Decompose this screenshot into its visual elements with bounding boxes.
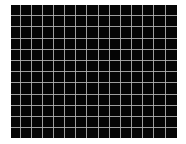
grid-line-horizontal: [11, 49, 177, 50]
grid-line-horizontal: [11, 38, 177, 39]
grid-line-horizontal: [11, 94, 177, 95]
image-canvas: [0, 0, 186, 144]
grid-pattern-panel: [11, 5, 177, 138]
grid-line-horizontal: [11, 127, 177, 128]
grid-line-horizontal: [11, 82, 177, 83]
grid-line-horizontal: [11, 71, 177, 72]
grid-line-horizontal: [11, 116, 177, 117]
grid-line-horizontal: [11, 105, 177, 106]
grid-line-horizontal: [11, 26, 177, 27]
grid-line-horizontal: [11, 60, 177, 61]
grid-line-horizontal: [11, 15, 177, 16]
